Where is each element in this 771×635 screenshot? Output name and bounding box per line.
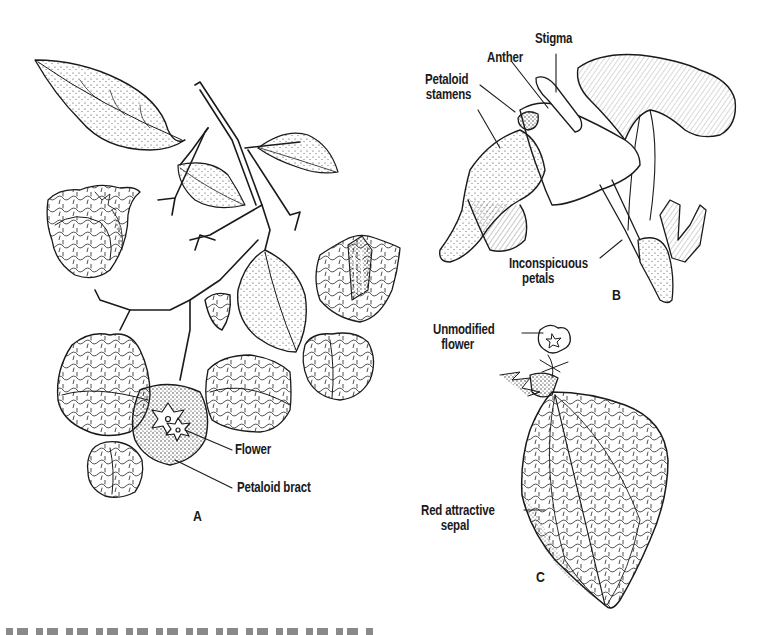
bract-lower-right [303, 333, 373, 400]
panel-letter-c: C [536, 568, 545, 585]
label-petaloid-stamens-line1: Petaloid [425, 72, 471, 87]
leaf-central [205, 250, 306, 352]
label-red-attractive-sepal-line2: sepal [421, 518, 495, 533]
leaf-small-right [258, 133, 338, 173]
petal-main-lobe [440, 103, 640, 262]
panel-c-drawing [500, 325, 668, 608]
figure-caption-clipped [0, 626, 771, 635]
unmodified-flower [500, 325, 570, 396]
label-anther: Anther [487, 50, 523, 65]
label-flower: Flower [235, 442, 271, 457]
label-petaloid-stamens-line2: stamens [425, 87, 471, 102]
bract-open-right [316, 235, 400, 322]
label-unmodified-flower: Unmodified flower [433, 322, 495, 352]
label-red-attractive-sepal-line1: Red attractive [421, 503, 495, 518]
label-unmodified-flower-line1: Unmodified [433, 322, 495, 337]
label-red-attractive-sepal: Red attractive sepal [421, 503, 495, 533]
label-unmodified-flower-line2: flower [433, 337, 495, 352]
label-stigma: Stigma [535, 31, 572, 46]
label-inconspicuous-petals-line2: petals [509, 271, 588, 286]
caption-text-fragment [6, 628, 376, 635]
illustration-canvas [0, 0, 771, 635]
label-petaloid-stamens: Petaloid stamens [425, 72, 471, 102]
panel-letter-b: B [612, 286, 621, 303]
botanical-figure: Flower Petaloid bract A Stigma Anther Pe… [0, 0, 771, 635]
leaf-large [35, 60, 185, 150]
bract-small-bottom [88, 442, 143, 498]
leaf-small-middle [178, 163, 245, 208]
label-inconspicuous-petals: Inconspicuous petals [509, 256, 588, 286]
panel-a-drawing [35, 60, 400, 497]
bract-cluster-top-left [47, 185, 140, 277]
panel-letter-a: A [193, 507, 202, 524]
label-petaloid-bract: Petaloid bract [237, 480, 311, 495]
label-inconspicuous-petals-line1: Inconspicuous [509, 256, 588, 271]
bract-mid-right [206, 355, 291, 432]
